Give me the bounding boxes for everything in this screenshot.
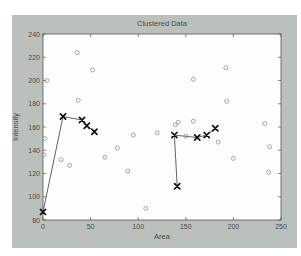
y-tick-label: 180 bbox=[28, 100, 40, 107]
y-tick-label: 80 bbox=[32, 217, 40, 224]
y-tick-label: 220 bbox=[28, 54, 40, 61]
y-tick-label: 240 bbox=[28, 31, 40, 38]
x-tick-label: 100 bbox=[132, 223, 144, 230]
y-tick-label: 120 bbox=[28, 170, 40, 177]
x-tick-label: 0 bbox=[41, 223, 45, 230]
y-axis-label: Intensity bbox=[12, 113, 20, 141]
x-tick-label: 150 bbox=[180, 223, 192, 230]
matlab-figure: Clustered Data Area Intensity 0501001502… bbox=[12, 15, 297, 248]
y-tick-label: 140 bbox=[28, 147, 40, 154]
x-tick-label: 200 bbox=[228, 223, 240, 230]
x-tick-label: 250 bbox=[275, 223, 287, 230]
plot-area bbox=[43, 34, 281, 220]
y-tick-label: 100 bbox=[28, 193, 40, 200]
x-axis-label: Area bbox=[154, 232, 171, 241]
y-tick-label: 160 bbox=[28, 124, 40, 131]
y-tick-label: 200 bbox=[28, 77, 40, 84]
plot-title: Clustered Data bbox=[137, 19, 188, 28]
scatter-plot: Clustered Data Area Intensity 0501001502… bbox=[12, 15, 297, 248]
x-tick-label: 50 bbox=[87, 223, 95, 230]
